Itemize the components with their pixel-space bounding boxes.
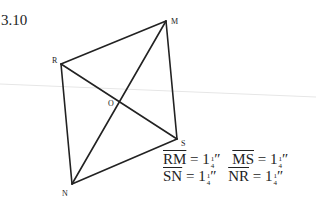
whole-part: 1 [198, 168, 206, 184]
edge-nr [61, 64, 72, 184]
unit: ″ [282, 151, 288, 167]
edge-sn [72, 139, 177, 184]
vertex-label-o: O [108, 99, 114, 108]
whole-part: 1 [265, 168, 273, 184]
whole-part: 1 [202, 151, 210, 167]
guide-line [0, 84, 316, 97]
equals-sign: = [258, 151, 266, 167]
vertex-label-r: R [52, 56, 58, 65]
diagonal-mn [72, 21, 166, 184]
vertex-label-s: S [181, 139, 185, 148]
edge-rm [61, 21, 166, 64]
vertex-label-m: M [171, 17, 178, 26]
equals-sign: = [186, 168, 194, 184]
measurement-row: SN = 114″ NR = 114″ [163, 168, 296, 185]
equals-sign: = [190, 151, 198, 167]
segment-label: MS [232, 151, 254, 167]
segment-label: NR [228, 168, 249, 184]
unit: ″ [214, 151, 220, 167]
edge-ms [166, 21, 177, 139]
equals-sign: = [253, 168, 261, 184]
rhombus-diagonals [61, 21, 177, 184]
segment-label: RM [163, 151, 186, 167]
measurement-nr: NR = 114″ [228, 168, 283, 187]
whole-part: 1 [270, 151, 278, 167]
measurement-row: RM = 114″ MS = 114″ [163, 151, 296, 168]
unit: ″ [210, 168, 216, 184]
segment-label: SN [163, 168, 182, 184]
vertex-label-n: N [62, 189, 68, 198]
measurements: RM = 114″ MS = 114″ SN = 114″ NR = 114″ [163, 151, 296, 185]
unit: ″ [277, 168, 283, 184]
measurement-sn: SN = 114″ [163, 168, 216, 187]
